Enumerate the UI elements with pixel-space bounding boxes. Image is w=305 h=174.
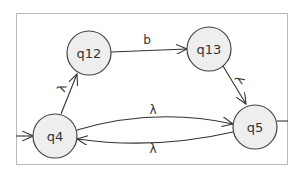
state-q4: q4 (33, 114, 77, 158)
state-q12: q12 (67, 31, 111, 75)
state-label: q4 (47, 129, 64, 144)
state-label: q13 (197, 42, 222, 57)
state-q13: q13 (187, 27, 231, 71)
automaton-diagram: b λ λ λ λ q12 q13 q4 q5 (0, 0, 305, 174)
edge-label-q4-q5: λ (149, 103, 156, 117)
edge-q12-q13 (111, 49, 187, 52)
edge-q4-q12 (61, 74, 77, 114)
state-q5: q5 (233, 105, 277, 149)
edge-label-q5-q4: λ (149, 142, 156, 156)
edge-label-q4-q12: λ (54, 82, 70, 93)
state-label: q5 (247, 120, 264, 135)
edge-label-q12-q13: b (143, 33, 151, 47)
edge-q4-q5 (77, 117, 233, 130)
state-label: q12 (77, 46, 102, 61)
